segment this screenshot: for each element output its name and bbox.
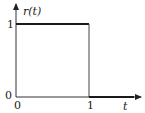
x-tick-1: 1 bbox=[87, 99, 94, 112]
y-tick-0: 0 bbox=[5, 89, 12, 102]
chart-canvas: r(t) 1 0 0 1 t bbox=[0, 0, 145, 113]
x-axis-label: t bbox=[123, 100, 128, 113]
y-tick-1: 1 bbox=[7, 18, 14, 31]
x-tick-0: 0 bbox=[14, 99, 21, 112]
y-axis-label: r(t) bbox=[23, 5, 41, 18]
